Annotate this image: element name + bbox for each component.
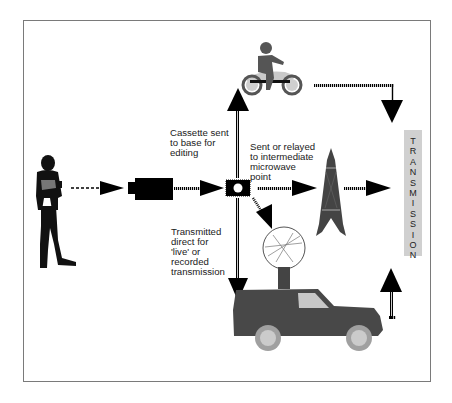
- transmission-box: T R A N S M I S S I O N: [404, 130, 422, 256]
- transmission-label: T R A N S M I S S I O N: [404, 136, 422, 261]
- van-connector: [0, 0, 452, 403]
- label-direct-transmission: Transmitted direct for 'live' or recorde…: [171, 227, 225, 277]
- label-microwave-relay: Sent or relayed to intermediate microwav…: [250, 142, 315, 182]
- van-connector-main: [389, 316, 393, 319]
- label-cassette-sent: Cassette sent to base for editing: [170, 128, 229, 158]
